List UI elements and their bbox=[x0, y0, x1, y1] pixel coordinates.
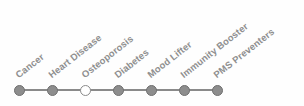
timeline-node-0[interactable] bbox=[14, 85, 25, 96]
timeline-node-4[interactable] bbox=[146, 85, 157, 96]
timeline-node-1[interactable] bbox=[47, 85, 58, 96]
timeline-label-0: Cancer bbox=[13, 51, 46, 80]
timeline-node-5[interactable] bbox=[179, 85, 190, 96]
timeline-node-3[interactable] bbox=[113, 85, 124, 96]
timeline-node-2[interactable] bbox=[80, 85, 91, 96]
health-benefits-timeline-figure: CancerHeart DiseaseOsteoporosisDiabetesM… bbox=[0, 0, 304, 106]
timeline-node-6[interactable] bbox=[212, 85, 223, 96]
